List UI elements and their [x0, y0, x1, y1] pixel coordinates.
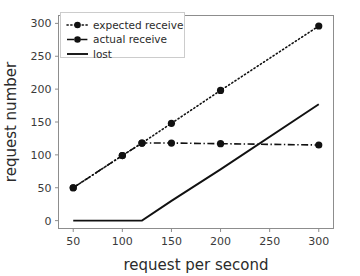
chart-figure: 50100150200250300 050100150200250300 req… [0, 0, 360, 276]
data-point [217, 87, 224, 94]
data-point [217, 140, 224, 147]
x-tick-label: 150 [161, 235, 182, 248]
x-axis-title: request per second [124, 256, 269, 274]
x-tick-label: 100 [112, 235, 133, 248]
data-point [119, 152, 126, 159]
data-point [70, 184, 77, 191]
y-tick-label: 250 [31, 50, 52, 63]
legend-marker [74, 36, 81, 43]
data-point [315, 141, 322, 148]
y-tick-label: 0 [45, 215, 52, 228]
y-tick-label: 200 [31, 83, 52, 96]
x-tick-label: 300 [308, 235, 329, 248]
legend-label: actual receive [93, 33, 167, 45]
legend-label: lost [93, 48, 112, 60]
legend-marker [74, 22, 81, 29]
data-point [168, 120, 175, 127]
x-tick-label: 200 [210, 235, 231, 248]
x-axis-ticks [73, 229, 319, 233]
y-tick-label: 300 [31, 17, 52, 30]
data-point [315, 22, 322, 29]
y-axis-title: request number [2, 61, 20, 182]
legend-label: expected receive [93, 19, 183, 31]
chart-legend: expected receiveactual receivelost [61, 13, 185, 60]
y-tick-label: 50 [38, 182, 52, 195]
data-point [168, 139, 175, 146]
x-tick-label: 50 [66, 235, 80, 248]
y-tick-label: 100 [31, 149, 52, 162]
series-line-actual-receive [73, 143, 319, 188]
line-chart: 50100150200250300 050100150200250300 req… [0, 0, 360, 276]
x-tick-label: 250 [259, 235, 280, 248]
x-axis-tick-labels: 50100150200250300 [66, 235, 329, 248]
y-axis-tick-labels: 050100150200250300 [31, 17, 52, 227]
y-axis-ticks [55, 23, 59, 220]
y-tick-label: 150 [31, 116, 52, 129]
series-line-lost [73, 104, 319, 220]
data-point [138, 139, 145, 146]
